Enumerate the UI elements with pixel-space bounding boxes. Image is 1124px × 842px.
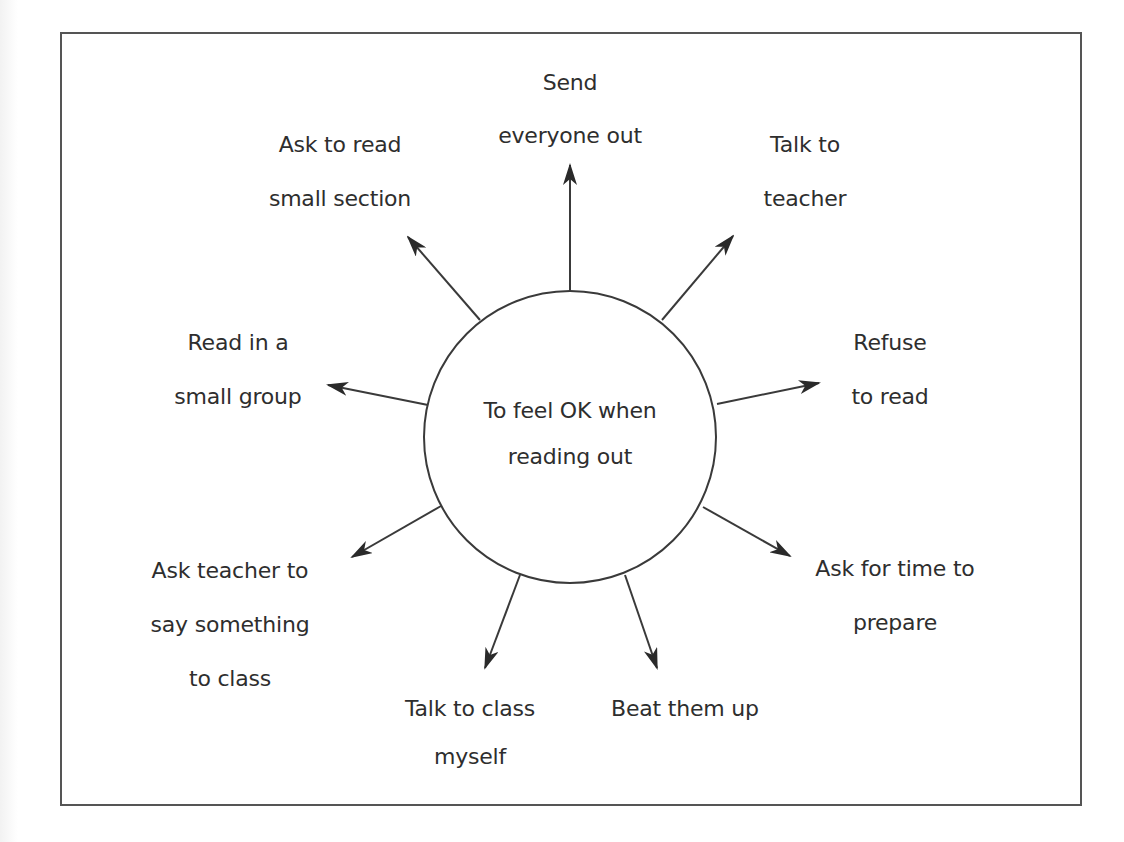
- node-send-everyone-out: Send everyone out: [470, 56, 670, 163]
- node-refuse-to-read: Refuse to read: [820, 316, 960, 424]
- arrow-talk-to-teacher: [662, 236, 733, 320]
- arrow-ask-to-read-small-section: [408, 237, 480, 320]
- node-line: Talk to: [720, 118, 890, 172]
- node-line: to class: [130, 652, 330, 706]
- node-line: Beat them up: [590, 682, 780, 736]
- node-line: Ask to read: [240, 118, 440, 172]
- node-line: Read in a: [148, 316, 328, 370]
- node-talk-to-class-myself: Talk to class myself: [375, 682, 565, 784]
- node-line: teacher: [720, 172, 890, 226]
- node-line: small group: [148, 370, 328, 424]
- node-line: myself: [375, 730, 565, 784]
- center-node-label: To feel OK when reading out: [470, 384, 670, 484]
- node-line: Send: [470, 56, 670, 110]
- node-ask-to-read-small-section: Ask to read small section: [240, 118, 440, 226]
- node-talk-to-teacher: Talk to teacher: [720, 118, 890, 226]
- node-line: Ask teacher to: [130, 544, 330, 598]
- arrow-read-in-small-group: [328, 385, 428, 405]
- node-line: Ask for time to: [790, 542, 1000, 596]
- node-line: to read: [820, 370, 960, 424]
- arrow-talk-to-class-myself: [485, 575, 520, 668]
- node-line: everyone out: [470, 109, 670, 163]
- node-line: say something: [130, 598, 330, 652]
- node-read-in-small-group: Read in a small group: [148, 316, 328, 424]
- node-beat-them-up: Beat them up: [590, 682, 780, 736]
- node-line: prepare: [790, 596, 1000, 650]
- center-line-2: reading out: [470, 430, 670, 484]
- arrow-ask-for-time-to-prepare: [703, 507, 790, 556]
- arrow-ask-teacher-to-say-something: [352, 506, 441, 557]
- node-ask-for-time-to-prepare: Ask for time to prepare: [790, 542, 1000, 650]
- node-line: Refuse: [820, 316, 960, 370]
- arrow-refuse-to-read: [717, 383, 819, 404]
- node-ask-teacher-to-say-something: Ask teacher to say something to class: [130, 544, 330, 706]
- arrow-beat-them-up: [625, 575, 657, 668]
- node-line: Talk to class: [375, 682, 565, 736]
- node-line: small section: [240, 172, 440, 226]
